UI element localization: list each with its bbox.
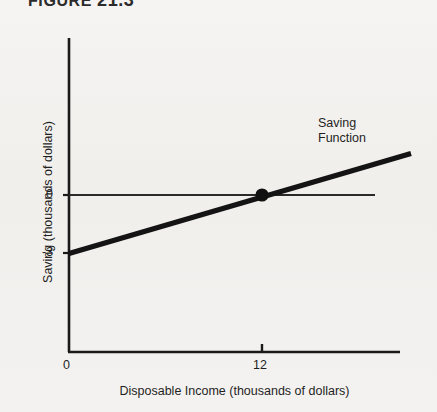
y-tick-label-neg3: -3 [42,245,53,259]
break-even-point-marker [255,188,268,201]
y-tick-label-0: 0 [46,187,53,201]
figure-page: FIGURE21.3 Saving (thousands of dollars)… [0,0,437,412]
saving-function-annotation-line2: Function [318,131,366,146]
chart-svg [0,0,437,412]
y-axis-title: Saving (thousands of dollars) [41,62,55,342]
saving-function-line [69,154,411,254]
x-axis-title: Disposable Income (thousands of dollars) [69,384,400,398]
x-tick-label-12: 12 [253,358,267,372]
saving-function-annotation-line1: Saving [318,116,366,131]
saving-function-annotation: Saving Function [318,116,366,146]
x-tick-label-0: 0 [63,358,70,372]
chart-plot-area: Saving (thousands of dollars) Disposable… [0,0,437,412]
